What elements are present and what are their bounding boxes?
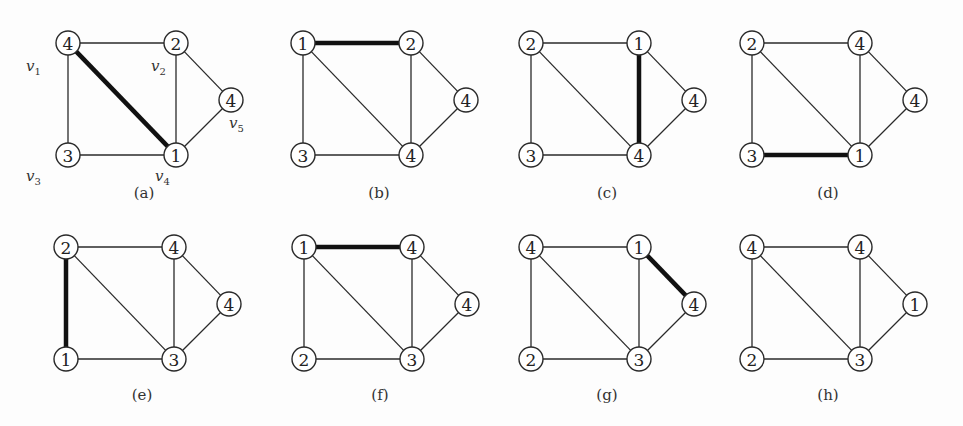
- panel-d: 24314(d): [740, 31, 927, 202]
- edge-v5-v4: [868, 108, 906, 146]
- edge-v1-v4: [312, 256, 403, 351]
- node-v3: 2: [519, 347, 543, 371]
- vertex-label-v1: v1: [26, 57, 41, 77]
- edge-v2-v5: [182, 256, 220, 296]
- panel-caption: (c): [597, 184, 617, 202]
- node-v3: 2: [292, 347, 316, 371]
- edge-v5-v4: [182, 312, 220, 350]
- node-value: 4: [747, 238, 758, 258]
- node-v2: 1: [627, 31, 651, 55]
- vertex-label-v4: v4: [155, 167, 170, 187]
- node-v5: 1: [903, 292, 927, 316]
- node-value: 1: [634, 34, 645, 54]
- node-value: 3: [63, 146, 74, 166]
- node-v5: 4: [217, 292, 241, 316]
- node-value: 2: [526, 350, 537, 370]
- node-v2: 2: [399, 31, 423, 55]
- panel-a: 42314v1v2v3v4v5(a): [26, 31, 244, 202]
- panel-caption: (h): [817, 386, 838, 404]
- node-v2: 4: [848, 31, 872, 55]
- node-value: 3: [407, 350, 418, 370]
- edge-v1-v4: [74, 256, 165, 351]
- node-value: 1: [299, 238, 310, 258]
- node-v4: 4: [399, 143, 423, 167]
- panel-e: 24134(e): [54, 235, 241, 404]
- edge-v5-v4: [184, 108, 222, 146]
- edge-v5-v4: [647, 108, 685, 146]
- edge-v1-v4: [539, 256, 630, 351]
- node-value: 1: [298, 34, 309, 54]
- node-value: 4: [226, 91, 237, 111]
- node-v5: 4: [455, 292, 479, 316]
- node-value: 4: [169, 238, 180, 258]
- vertex-label-v5: v5: [229, 114, 244, 134]
- panel-caption: (b): [368, 184, 389, 202]
- node-value: 4: [526, 238, 537, 258]
- figure: 42314v1v2v3v4v5(a)12344(b)21344(c)24314(…: [0, 0, 963, 426]
- node-v1: 1: [291, 31, 315, 55]
- node-value: 4: [910, 91, 921, 111]
- node-value: 2: [406, 34, 417, 54]
- node-v3: 3: [56, 143, 80, 167]
- node-v4: 4: [627, 143, 651, 167]
- node-v3: 3: [740, 143, 764, 167]
- node-v4: 3: [848, 347, 872, 371]
- node-v1: 1: [292, 235, 316, 259]
- node-value: 2: [171, 34, 182, 54]
- node-value: 2: [61, 238, 72, 258]
- node-v3: 3: [291, 143, 315, 167]
- node-value: 1: [171, 146, 182, 166]
- node-value: 3: [855, 350, 866, 370]
- node-value: 4: [634, 146, 645, 166]
- node-v1: 2: [519, 31, 543, 55]
- node-v3: 1: [54, 347, 78, 371]
- edge-v2-v5: [419, 52, 457, 92]
- node-v1: 2: [740, 31, 764, 55]
- edge-v1-v4: [760, 52, 851, 147]
- node-v3: 3: [519, 143, 543, 167]
- node-v1: 2: [54, 235, 78, 259]
- node-value: 1: [61, 350, 72, 370]
- node-v1: 4: [519, 235, 543, 259]
- node-v4: 3: [627, 347, 651, 371]
- node-v1: 4: [740, 235, 764, 259]
- node-value: 1: [855, 146, 866, 166]
- edge-v5-v4: [420, 312, 458, 350]
- node-value: 3: [169, 350, 180, 370]
- node-value: 3: [634, 350, 645, 370]
- edge-v5-v4: [419, 108, 457, 146]
- node-value: 4: [224, 295, 235, 315]
- node-v3: 2: [740, 347, 764, 371]
- node-v5: 4: [682, 292, 706, 316]
- node-v5: 4: [219, 88, 243, 112]
- edge-v2-v5: [868, 256, 906, 296]
- node-value: 1: [910, 295, 921, 315]
- edge-v2-v5: [420, 256, 458, 296]
- node-v2: 4: [162, 235, 186, 259]
- panel-g: 41234(g): [519, 235, 706, 404]
- node-v5: 4: [903, 88, 927, 112]
- panel-caption: (f): [371, 386, 388, 404]
- panel-c: 21344(c): [519, 31, 706, 202]
- node-value: 3: [298, 146, 309, 166]
- node-v4: 1: [164, 143, 188, 167]
- node-value: 1: [634, 238, 645, 258]
- node-value: 2: [299, 350, 310, 370]
- node-v1: 4: [56, 31, 80, 55]
- highlighted-edge-v2-v5: [647, 256, 685, 296]
- node-v2: 1: [627, 235, 651, 259]
- node-value: 3: [747, 146, 758, 166]
- graph-sequence-figure: 42314v1v2v3v4v5(a)12344(b)21344(c)24314(…: [0, 0, 963, 426]
- edge-v1-v4: [311, 52, 402, 147]
- node-value: 2: [747, 350, 758, 370]
- panel-caption: (a): [134, 184, 155, 202]
- node-value: 4: [689, 91, 700, 111]
- node-v4: 3: [162, 347, 186, 371]
- node-value: 4: [855, 238, 866, 258]
- node-value: 4: [461, 91, 472, 111]
- panel-h: 44231(h): [740, 235, 927, 404]
- node-value: 3: [526, 146, 537, 166]
- panel-caption: (e): [132, 386, 153, 404]
- node-v2: 4: [848, 235, 872, 259]
- edge-v2-v5: [868, 52, 906, 92]
